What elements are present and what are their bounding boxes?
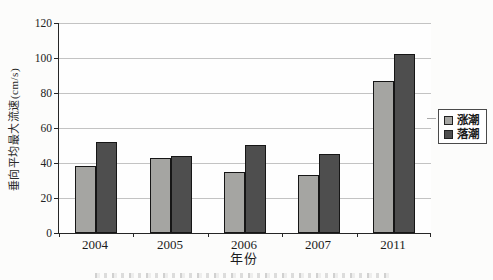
bar-2004-涨潮 <box>75 166 96 233</box>
gridline-y-100 <box>59 58 431 59</box>
y-tick-label-100: 100 <box>16 51 52 65</box>
y-tick-label-120: 120 <box>16 16 52 30</box>
bar-2007-落潮 <box>319 154 340 233</box>
x-category-label-2011: 2011 <box>358 238 428 252</box>
y-tick-label-40: 40 <box>16 156 52 170</box>
scan-artifact-dash <box>427 118 436 119</box>
bar-2005-落潮 <box>171 156 192 233</box>
x-tick-mark-3 <box>282 233 283 237</box>
x-tick-mark-1 <box>133 233 134 237</box>
y-tick-mark-0 <box>54 233 58 234</box>
legend: 涨潮 落潮 <box>438 109 487 144</box>
x-tick-mark-5 <box>430 233 431 237</box>
gridline-y-120 <box>59 23 431 24</box>
legend-label-ebb-tide: 落潮 <box>457 128 479 140</box>
bar-2005-涨潮 <box>150 158 171 233</box>
y-tick-mark-100 <box>54 58 58 59</box>
x-category-label-2006: 2006 <box>209 238 279 252</box>
bar-2011-落潮 <box>394 54 415 233</box>
y-tick-mark-80 <box>54 93 58 94</box>
y-tick-label-60: 60 <box>16 121 52 135</box>
x-tick-mark-2 <box>208 233 209 237</box>
legend-label-flood-tide: 涨潮 <box>457 114 479 126</box>
legend-item-ebb-tide: 落潮 <box>444 128 483 140</box>
y-tick-label-80: 80 <box>16 86 52 100</box>
y-tick-mark-60 <box>54 128 58 129</box>
x-category-label-2007: 2007 <box>283 238 353 252</box>
bar-2004-落潮 <box>96 142 117 233</box>
scanned-figure-page: 垂向平均最大流速(cm/s) 020406080100120 200420052… <box>0 0 493 280</box>
y-tick-mark-120 <box>54 23 58 24</box>
plot-area <box>58 23 431 234</box>
flood-tide-swatch-icon <box>444 116 453 125</box>
x-tick-mark-4 <box>357 233 358 237</box>
y-tick-mark-20 <box>54 198 58 199</box>
cropped-caption-remnant <box>95 273 390 278</box>
x-tick-mark-0 <box>59 233 60 237</box>
y-tick-label-0: 0 <box>16 226 52 240</box>
bar-2007-涨潮 <box>298 175 319 233</box>
legend-item-flood-tide: 涨潮 <box>444 114 483 126</box>
ebb-tide-swatch-icon <box>444 130 453 139</box>
x-category-label-2005: 2005 <box>135 238 205 252</box>
y-tick-label-20: 20 <box>16 191 52 205</box>
bar-2006-涨潮 <box>224 172 245 233</box>
bar-2006-落潮 <box>245 145 266 233</box>
x-category-label-2004: 2004 <box>60 238 130 252</box>
bar-2011-涨潮 <box>373 81 394 233</box>
x-axis-title: 年份 <box>204 251 284 266</box>
y-tick-mark-40 <box>54 163 58 164</box>
